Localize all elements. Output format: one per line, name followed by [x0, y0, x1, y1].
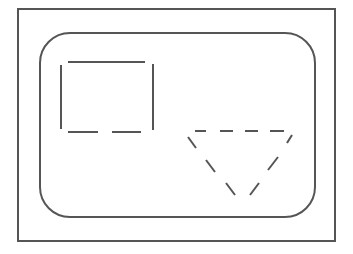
outer-frame	[18, 9, 335, 241]
dashed-triangle-shape	[188, 131, 292, 195]
diagram-canvas	[0, 0, 353, 254]
rounded-panel	[40, 33, 315, 217]
square-shape	[61, 62, 153, 132]
